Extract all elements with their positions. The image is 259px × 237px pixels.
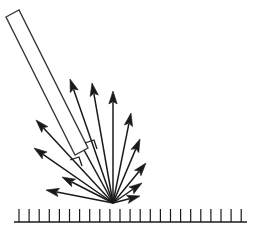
hatched-surface-group — [14, 209, 247, 222]
scattering-diagram-canvas — [0, 0, 259, 237]
scattered-ray-left-low-arrowhead — [62, 177, 75, 187]
scattering-diagram-figure — [0, 0, 259, 237]
scattered-ray-upper-right — [113, 113, 133, 203]
scattered-ray-upper-right-shaft — [113, 124, 129, 203]
scattered-ray-right-low-arrowhead — [129, 183, 142, 194]
surface-hatch-ticks — [19, 209, 241, 222]
scattered-ray-left-mid-low-arrowhead — [34, 148, 47, 159]
incident-beam-bar — [6, 10, 88, 155]
